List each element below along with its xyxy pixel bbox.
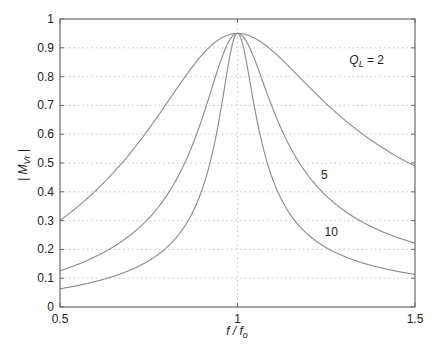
- curve-label: 10: [324, 225, 338, 239]
- x-tick-label: 1.5: [407, 312, 424, 326]
- y-tick-label: 0.7: [37, 98, 54, 112]
- y-tick-label: 0.5: [37, 156, 54, 170]
- curves: [60, 33, 415, 288]
- y-tick-label: 0.3: [37, 214, 54, 228]
- curve-q-10: [60, 33, 415, 288]
- y-axis-label: | MVr |: [16, 149, 32, 181]
- y-tick-label: 0.1: [37, 271, 54, 285]
- y-tick-label: 0.2: [37, 242, 54, 256]
- y-tick-label: 0.6: [37, 127, 54, 141]
- curve-label: QL = 2: [349, 53, 384, 69]
- y-tick-label: 0.8: [37, 70, 54, 84]
- curve-annotations: QL = 2510: [321, 53, 384, 240]
- x-axis-label: f / fo: [226, 324, 248, 340]
- resonance-chart: 00.10.20.30.40.50.60.70.80.910.511.5 QL …: [0, 0, 442, 355]
- curve-label: 5: [321, 168, 328, 182]
- y-tick-label: 0.9: [37, 41, 54, 55]
- y-tick-label: 0.4: [37, 185, 54, 199]
- x-tick-label: 0.5: [52, 312, 69, 326]
- y-tick-label: 1: [47, 12, 54, 26]
